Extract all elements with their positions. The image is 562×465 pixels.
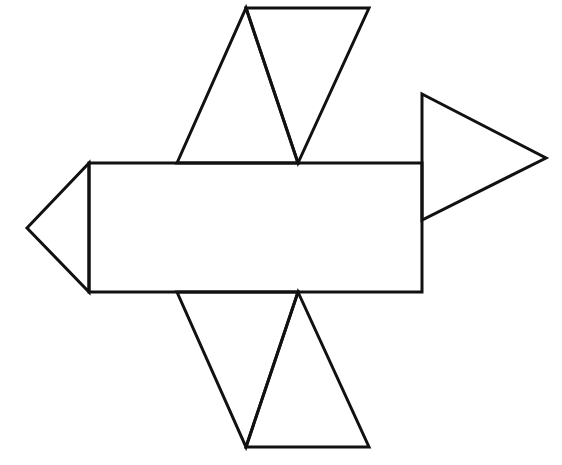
top-right-triangle — [246, 8, 369, 163]
bottom-left-triangle — [177, 292, 298, 447]
bottom-right-triangle — [246, 292, 369, 447]
top-left-triangle — [177, 8, 298, 163]
net-diagram — [0, 0, 562, 465]
right-triangle — [422, 94, 546, 220]
net-diagram-svg — [0, 0, 562, 465]
center-rectangle — [89, 163, 422, 292]
left-triangle — [27, 163, 89, 292]
